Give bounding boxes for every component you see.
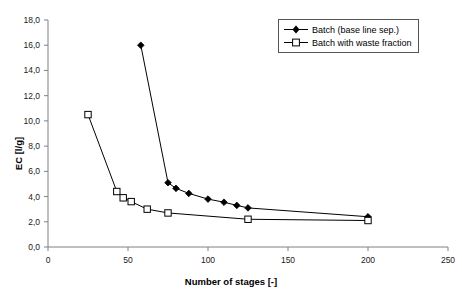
x-axis-tick-label: 250: [441, 255, 455, 265]
data-point-open-square: [114, 188, 120, 194]
data-point-open-square: [128, 198, 134, 204]
legend-label: Batch (base line sep.): [312, 25, 399, 35]
data-point-filled-diamond: [165, 179, 172, 186]
x-axis-tick-label: 100: [201, 255, 215, 265]
data-point-open-square: [120, 195, 126, 201]
data-point-filled-diamond: [205, 196, 212, 203]
legend-label: Batch with waste fraction: [312, 38, 412, 48]
data-point-open-square: [165, 210, 171, 216]
y-axis-ticks: [44, 20, 48, 247]
data-series: [85, 111, 371, 223]
x-axis-tick-label: 200: [361, 255, 375, 265]
y-axis-title: EC [l/g]: [13, 124, 24, 184]
chart-container: 0,02,04,06,08,010,012,014,016,018,0 0501…: [0, 0, 462, 303]
x-axis-tick-label: 50: [123, 255, 132, 265]
legend-item-batch-with-waste-fraction: Batch with waste fraction: [283, 36, 412, 49]
data-point-filled-diamond: [234, 202, 241, 209]
y-axis-tick-label: 0,0: [8, 242, 40, 252]
legend-marker-open-square-icon: [283, 37, 309, 48]
y-axis-tick-label: 16,0: [8, 40, 40, 50]
data-series: [138, 42, 372, 220]
legend-item-batch-base-line-sep: Batch (base line sep.): [283, 23, 412, 36]
data-point-open-square: [85, 111, 91, 117]
x-axis-title: Number of stages [-]: [0, 276, 462, 287]
data-point-filled-diamond: [186, 190, 193, 197]
x-axis-ticks: [48, 247, 448, 251]
data-point-open-square: [365, 217, 371, 223]
data-point-open-square: [144, 206, 150, 212]
data-point-filled-diamond: [173, 185, 180, 192]
data-point-open-square: [245, 216, 251, 222]
legend-marker-filled-diamond-icon: [283, 24, 309, 35]
y-axis-tick-label: 14,0: [8, 65, 40, 75]
y-axis-tick-label: 18,0: [8, 15, 40, 25]
data-point-filled-diamond: [138, 42, 145, 49]
data-point-filled-diamond: [221, 199, 228, 206]
x-axis-tick-label: 150: [281, 255, 295, 265]
x-axis-tick-label: 0: [46, 255, 51, 265]
y-axis-tick-label: 2,0: [8, 217, 40, 227]
data-point-filled-diamond: [245, 205, 252, 212]
chart-legend: Batch (base line sep.) Batch with waste …: [278, 19, 419, 53]
y-axis-tick-label: 12,0: [8, 91, 40, 101]
y-axis-tick-label: 4,0: [8, 192, 40, 202]
data-series-group: [85, 42, 372, 224]
